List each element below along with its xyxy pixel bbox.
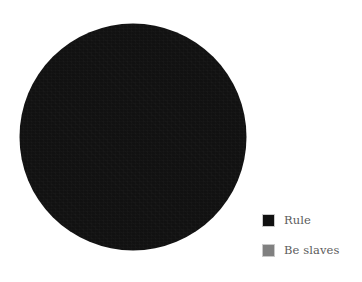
legend-label-be-slaves: Be slaves <box>284 244 339 257</box>
pie-svg <box>19 23 247 251</box>
legend-label-rule: Rule <box>284 214 311 227</box>
legend-swatch-be-slaves <box>262 244 275 257</box>
legend-swatch-rule <box>262 214 275 227</box>
chart-legend: Rule Be slaves <box>262 212 360 258</box>
chart-canvas: Rule Be slaves <box>0 0 362 282</box>
pie-slice-rule[interactable] <box>20 24 247 251</box>
pie-chart <box>19 23 247 251</box>
legend-item-be-slaves[interactable]: Be slaves <box>262 242 360 258</box>
legend-item-rule[interactable]: Rule <box>262 212 360 228</box>
